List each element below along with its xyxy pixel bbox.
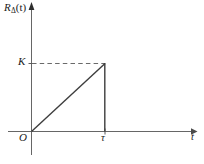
y-axis-label: RΔ(t) (4, 2, 26, 14)
y-axis-symbol: R (4, 1, 11, 13)
y-tick-label-k: K (18, 56, 25, 67)
origin-label: O (19, 132, 27, 143)
y-axis-arrowhead (29, 2, 35, 10)
y-axis (29, 2, 35, 155)
ramp-line (32, 64, 106, 132)
ramp-function-figure: RΔ(t) K O τ t (0, 0, 204, 164)
x-tick-label-tau: τ (101, 133, 105, 144)
y-axis-argument: (t) (16, 1, 26, 13)
x-axis-label: t (191, 132, 194, 143)
